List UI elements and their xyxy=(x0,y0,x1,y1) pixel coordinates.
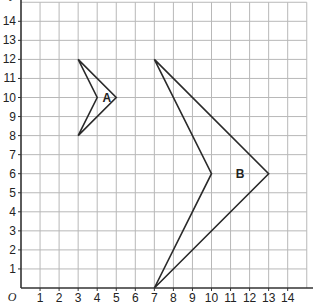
x-tick-label: 13 xyxy=(262,291,276,305)
x-tick-label: 9 xyxy=(189,291,196,305)
y-tick-label: 14 xyxy=(3,14,17,28)
y-tick-label: 13 xyxy=(3,33,17,47)
y-tick-label: 6 xyxy=(9,167,16,181)
shape-label-a: A xyxy=(102,91,111,105)
origin-label: O xyxy=(8,290,17,304)
x-tick-label: 5 xyxy=(113,291,120,305)
x-tick-label: 12 xyxy=(243,291,257,305)
x-tick-label: 4 xyxy=(94,291,101,305)
x-tick-label: 3 xyxy=(75,291,82,305)
x-tick-label: 14 xyxy=(281,291,295,305)
y-tick-label: 9 xyxy=(9,110,16,124)
x-tick-label: 8 xyxy=(170,291,177,305)
y-tick-label: 12 xyxy=(3,52,17,66)
grid-lines xyxy=(21,2,307,288)
y-tick-label: 1 xyxy=(9,262,16,276)
y-tick-label: 11 xyxy=(4,71,17,85)
x-tick-label: 11 xyxy=(224,291,237,305)
tick-labels: 12345678910111213141234567891011121314Ox… xyxy=(3,0,313,305)
shape-label-b: B xyxy=(236,167,245,181)
x-tick-label: 2 xyxy=(56,291,63,305)
y-tick-label: 5 xyxy=(9,186,16,200)
y-tick-label: 2 xyxy=(9,243,16,257)
y-tick-label: 10 xyxy=(3,91,17,105)
x-tick-label: 1 xyxy=(37,291,44,305)
x-tick-label: 10 xyxy=(205,291,219,305)
y-axis-label: y xyxy=(9,0,16,1)
y-tick-label: 4 xyxy=(9,205,16,219)
x-tick-label: 6 xyxy=(132,291,139,305)
x-tick-label: 7 xyxy=(151,291,158,305)
y-tick-label: 7 xyxy=(9,148,16,162)
y-tick-label: 3 xyxy=(9,224,16,238)
coordinate-grid-diagram: 12345678910111213141234567891011121314Ox… xyxy=(0,0,313,305)
y-tick-label: 8 xyxy=(9,129,16,143)
